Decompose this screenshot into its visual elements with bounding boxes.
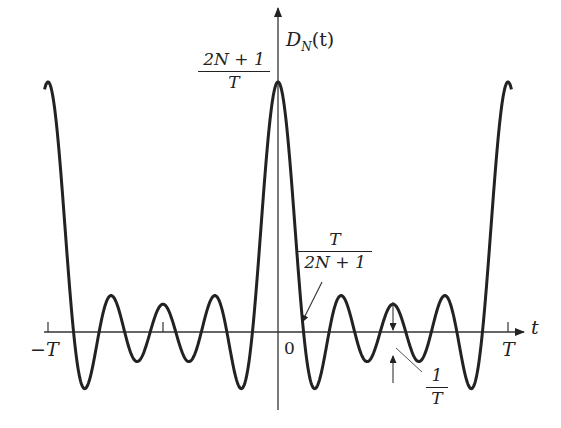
tick-label-zero: 0 — [284, 340, 295, 357]
dirichlet-kernel-diagram: DN(t) t −T 0 T 2N + 1 T T 2N + 1 1 T — [0, 0, 561, 428]
tick-label-pos-T: T — [502, 340, 515, 359]
amplitude-label: 1 T — [426, 366, 448, 408]
plot-canvas — [0, 0, 561, 428]
first-zero-label: T 2N + 1 — [298, 230, 372, 272]
tick-label-neg-T: −T — [30, 340, 59, 359]
first-zero-arrow — [302, 282, 322, 322]
peak-height-label: 2N + 1 T — [198, 50, 270, 92]
y-axis-label: DN(t) — [286, 30, 334, 53]
x-axis-label: t — [531, 318, 539, 337]
